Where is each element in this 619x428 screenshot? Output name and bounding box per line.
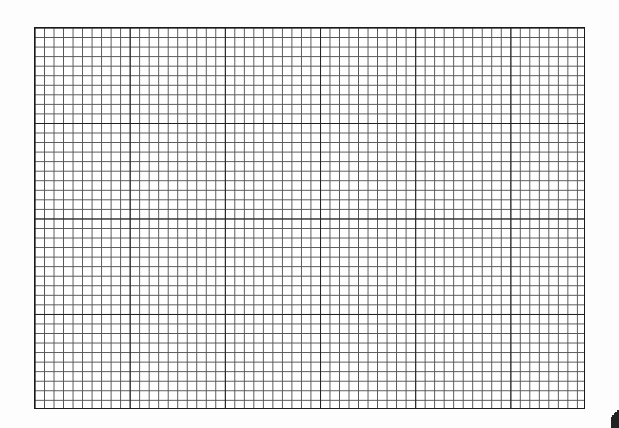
- page-corner-shadow: [611, 398, 619, 428]
- grid-area: [34, 27, 585, 409]
- graph-paper-sheet: [0, 0, 619, 428]
